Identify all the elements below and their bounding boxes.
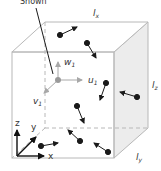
- molecule-1: [44, 62, 82, 93]
- lx-label: lx: [93, 8, 100, 19]
- molecule: [94, 143, 111, 155]
- u1-label: u1: [88, 75, 98, 86]
- molecule: [74, 103, 84, 123]
- v1-label: v1: [33, 96, 42, 107]
- x-axis-label: x: [48, 151, 54, 161]
- molecule: [38, 143, 58, 149]
- lz-label: lz: [152, 80, 159, 91]
- ly-label: ly: [136, 152, 143, 164]
- w1-label: w1: [64, 57, 75, 68]
- callout-label: Shown: [20, 0, 47, 6]
- z-axis-label: z: [15, 118, 20, 128]
- molecule: [100, 80, 109, 100]
- front-face: [12, 52, 114, 158]
- box-diagram: Shown lx lz ly w1 u1 v1 z y x: [0, 0, 161, 171]
- y-axis-label: y: [31, 122, 37, 132]
- y-axis-arrow: [17, 137, 36, 156]
- molecule: [68, 130, 83, 144]
- coordinate-axes: [17, 130, 44, 156]
